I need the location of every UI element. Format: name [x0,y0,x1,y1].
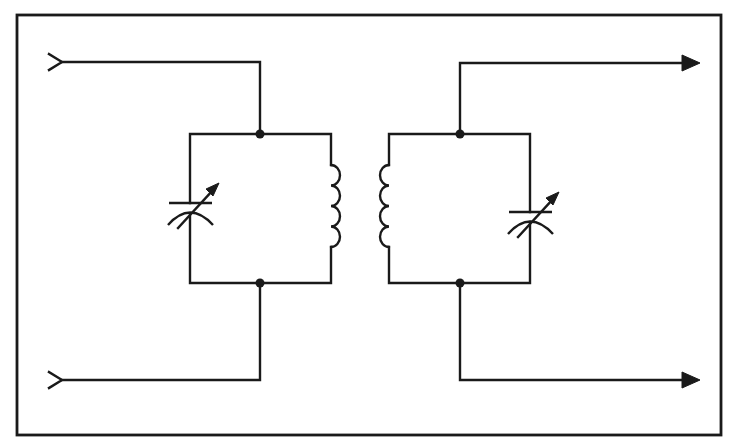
output-top-wire [460,63,684,134]
output-arrow-icon [682,372,700,388]
input-bottom-wire [62,283,260,380]
junction-dot [256,279,265,288]
input-chevron-icon [49,372,62,388]
right-tank-top-wire [389,134,530,212]
diagram-frame [17,15,721,435]
inductor-l2-icon [380,165,389,247]
output-top-terminal [460,55,700,134]
input-top-wire [62,62,260,134]
output-bottom-terminal [460,283,700,388]
junction-dot [256,130,265,139]
coupled-tuned-circuit-diagram: C1 L1 L2 C2 [0,0,735,446]
variable-capacitor-c1-icon [168,183,219,228]
left-tank-circuit [168,130,340,288]
right-tank-bottom-wire [389,222,530,283]
variable-capacitor-c2-icon [508,192,559,237]
right-tank-circuit [380,130,559,288]
input-chevron-icon [49,54,62,70]
inductor-l1-icon [331,165,340,247]
output-bottom-wire [460,283,684,380]
output-arrow-icon [682,55,700,71]
input-bottom-terminal [49,283,260,388]
input-top-terminal [49,54,260,134]
